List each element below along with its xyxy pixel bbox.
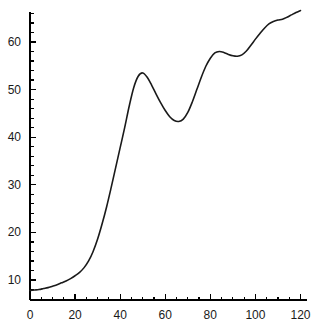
x-tick-label: 80 (204, 309, 217, 321)
x-tick-label: 100 (245, 309, 265, 321)
line-chart-plot (0, 0, 322, 330)
x-tick-label: 120 (290, 309, 310, 321)
x-tick-label: 0 (27, 309, 34, 321)
y-tick-label: 40 (0, 131, 21, 143)
x-tick-label: 20 (68, 309, 81, 321)
y-tick-label: 50 (0, 84, 21, 96)
y-tick-label: 30 (0, 179, 21, 191)
y-tick-label: 10 (0, 274, 21, 286)
figure-caption (0, 321, 322, 330)
chart-ticks (30, 13, 300, 300)
chart-axes (30, 12, 307, 300)
x-tick-label: 60 (159, 309, 172, 321)
y-tick-label: 20 (0, 226, 21, 238)
chart-series (30, 11, 300, 291)
chart-figure: 102030405060 020406080100120 (0, 0, 322, 330)
y-tick-label: 60 (0, 36, 21, 48)
x-tick-label: 40 (114, 309, 127, 321)
data-line (30, 11, 300, 291)
